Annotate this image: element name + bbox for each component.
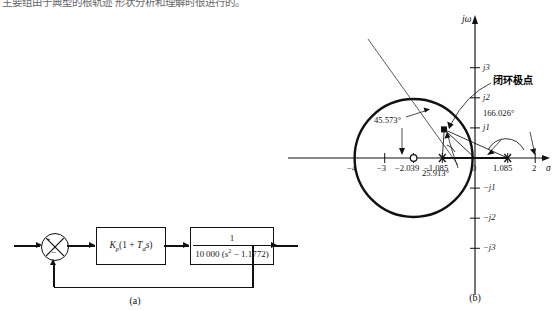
imag-axis-arrow-icon [472, 15, 478, 24]
panel-b-caption: (b) [460, 292, 490, 303]
feedback-wire-bottom [54, 287, 253, 289]
fraction-bar [193, 245, 270, 246]
y-tick-label-neg-j1: −j1 [483, 182, 495, 192]
root-locus-plot [280, 0, 558, 311]
root-locus-panel: −4 −3 −2.039 −1.085 0 1.085 2 j1 j2 j3 −… [280, 0, 558, 311]
open-loop-zero-marker [410, 155, 417, 162]
plant-denominator: 10 000 (s2 − 1.1772) [191, 247, 272, 259]
controller-input-arrow-icon [89, 242, 95, 248]
summing-junction: + − [41, 233, 69, 261]
leader-166-right [530, 132, 534, 150]
header-text: 主要组由于典型的根轨迹 形状分析和理解时很进行的。 [2, 0, 278, 9]
leader-closed-loop-pole-arrow-icon [447, 122, 453, 129]
leader-25-arrow-icon [444, 132, 450, 139]
x-tick-label-2: −2.039 [395, 163, 419, 173]
y-tick-label-j1: j1 [483, 122, 490, 132]
x-tick-label-4: 0 [472, 163, 476, 173]
leader-166-left-arrow-icon [487, 150, 495, 155]
y-tick-label-j3: j3 [483, 62, 490, 72]
leader-45-arrow-icon [424, 108, 430, 113]
y-tick-label-neg-j2: −j2 [483, 212, 495, 222]
block-diagram-panel: + − Kp(1 + Tds) 1 10 000 (s2 − 1.1772) [0, 206, 280, 311]
x-tick-label-5: 1.085 [493, 163, 512, 173]
closed-loop-pole-label: 闭环极点 [493, 72, 533, 87]
plant-transfer-function: 1 10 000 (s2 − 1.1772) [191, 233, 272, 259]
feedback-wire-left [53, 263, 55, 287]
angle-label-25: 25.913° [422, 168, 449, 178]
x-tick-label-1: −3 [377, 163, 386, 173]
plant-numerator: 1 [191, 233, 272, 243]
panel-a-caption: (a) [120, 295, 150, 306]
sum-plus-sign: + [47, 237, 51, 244]
figure-page: 主要组由于典型的根轨迹 形状分析和理解时很进行的。 + − Kp(1 + Tds… [0, 0, 558, 311]
y-tick-label-neg-j3: −j3 [483, 242, 495, 252]
asymptote-line [368, 39, 458, 165]
angle-label-166: 166.026° [483, 108, 514, 118]
real-axis-label: σ [546, 163, 551, 173]
pd-controller-label: Kp(1 + Tds) [109, 240, 152, 252]
sum-minus-sign: − [51, 249, 56, 256]
leader-166-right-arrow-icon [530, 148, 536, 155]
pd-controller-block: Kp(1 + Tds) [96, 227, 166, 265]
leader-45-down-arrow-icon [399, 148, 405, 155]
imag-axis-label: jω [462, 14, 471, 24]
plant-input-arrow-icon [183, 242, 189, 248]
plant-block: 1 10 000 (s2 − 1.1772) [190, 227, 274, 265]
angle-label-45: 45.573° [374, 115, 401, 125]
x-tick-label-0: −4 [347, 163, 356, 173]
x-tick-label-6: 2 [532, 163, 536, 173]
y-tick-label-j2: j2 [483, 92, 490, 102]
closed-loop-pole-marker [441, 126, 447, 132]
feedback-wire-right [252, 245, 254, 288]
feedback-arrow-icon [50, 259, 56, 265]
output-arrow-icon [271, 242, 277, 248]
real-axis-arrow-icon [542, 155, 550, 161]
